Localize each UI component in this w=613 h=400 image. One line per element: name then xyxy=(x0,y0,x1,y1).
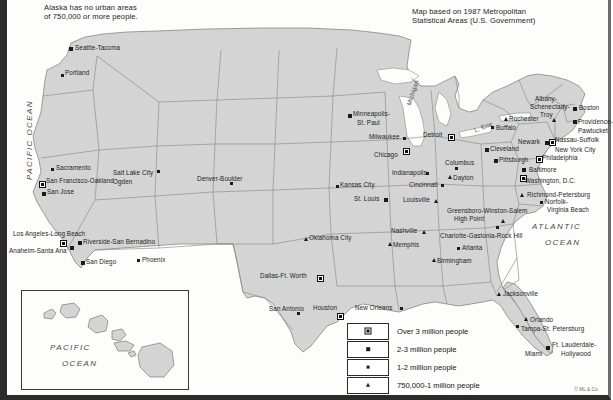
city-symbol xyxy=(520,193,524,197)
city-label: Los Angeles-Long Beach xyxy=(13,230,85,237)
city-label: Houston xyxy=(313,304,337,311)
city-label: Birmingham xyxy=(437,257,472,264)
city-label: New Orleans xyxy=(355,304,393,311)
city-label: Jacksonville xyxy=(503,290,538,297)
triangle-icon xyxy=(366,383,370,387)
city-label: Oklahoma City xyxy=(309,234,352,241)
city-label: Kansas City xyxy=(340,181,375,188)
city-label: Cleveland xyxy=(490,145,519,152)
city-symbol xyxy=(230,182,233,185)
pacific-ocean-inset-label-line2: OCEAN xyxy=(62,359,97,368)
city-label: Norfolk- xyxy=(545,198,568,205)
city-label: Nassau-Suffolk xyxy=(555,136,599,143)
city-label: Boston xyxy=(579,104,599,111)
city-label: Buffalo xyxy=(496,124,516,131)
city-label: Milwaukee xyxy=(369,133,400,140)
city-symbol xyxy=(51,168,54,171)
city-label: High Point xyxy=(454,215,484,222)
city-symbol xyxy=(524,317,528,321)
city-label: Charlotte-Gastonia-Rock Hill xyxy=(440,232,523,239)
city-symbol xyxy=(81,261,85,265)
city-label: Detroit xyxy=(423,131,442,138)
city-symbol xyxy=(317,275,324,282)
city-symbol xyxy=(297,312,300,315)
city-symbol xyxy=(400,307,403,310)
city-label: Ft. Lauderdale- xyxy=(552,341,596,348)
city-label: San Antonio xyxy=(269,305,304,312)
city-label: Nashville xyxy=(391,227,417,234)
city-label: Minneapolis- xyxy=(353,110,390,117)
city-label: Washington, D.C. xyxy=(525,177,576,184)
city-symbol xyxy=(69,47,73,51)
legend-symbol-box xyxy=(347,341,389,358)
city-label: Riverside-San Bernadino xyxy=(83,238,155,245)
city-label: Greensboro-Winston-Salem xyxy=(447,207,527,214)
city-label: Anaheim-Santa Ana xyxy=(9,247,67,254)
city-label: Schenectady- xyxy=(530,103,570,110)
city-label: Providence- xyxy=(578,118,613,125)
atlantic-ocean-label-line1: ATLANTIC xyxy=(532,222,581,231)
city-label: New York City xyxy=(555,146,596,153)
city-label: San Diego xyxy=(86,258,116,265)
city-symbol xyxy=(403,148,410,155)
atlantic-ocean-label-line2: OCEAN xyxy=(545,238,580,247)
city-symbol xyxy=(546,346,550,350)
pacific-ocean-label: PACIFIC OCEAN xyxy=(25,100,34,180)
hawaii-islands xyxy=(22,291,188,389)
city-symbol xyxy=(384,198,388,202)
city-label: Atlanta xyxy=(462,244,482,251)
city-label: Pawtucket xyxy=(578,127,608,134)
city-symbol xyxy=(422,230,426,234)
city-label: Chicago xyxy=(374,151,398,158)
city-label: Troy xyxy=(540,111,553,118)
medium-square-icon xyxy=(366,347,370,351)
city-symbol xyxy=(455,167,458,170)
city-symbol xyxy=(504,117,508,121)
city-label: Hollywood xyxy=(561,350,591,357)
alaska-note: Alaska has no urban areas of 750,000 or … xyxy=(44,4,138,21)
legend-label: 750,000-1 million people xyxy=(397,381,480,390)
city-symbol xyxy=(573,107,577,111)
city-label: Tampa-St. Petersburg xyxy=(521,325,584,332)
city-symbol xyxy=(304,237,308,241)
city-symbol xyxy=(78,241,82,245)
city-label: Albany- xyxy=(535,95,557,102)
city-label: Philadelphia xyxy=(542,154,578,161)
legend-symbol-box xyxy=(347,323,389,340)
pacific-ocean-inset-label-line1: PACIFIC xyxy=(50,343,91,352)
city-symbol xyxy=(403,137,406,140)
square-with-dot-icon xyxy=(365,328,372,335)
city-symbol xyxy=(337,313,344,320)
city-label: Virginia Beach xyxy=(547,206,589,213)
city-symbol xyxy=(157,170,160,173)
city-symbol xyxy=(448,175,452,179)
legend-label: 1-2 million people xyxy=(397,363,457,372)
city-label: Cincinnati xyxy=(409,181,438,188)
city-symbol xyxy=(441,184,444,187)
hawaii-inset-map: PACIFIC OCEAN xyxy=(21,290,189,390)
city-label: Phoenix xyxy=(142,256,165,263)
city-symbol xyxy=(540,201,543,204)
city-label: Rochester xyxy=(509,115,539,122)
city-label: St. Paul xyxy=(357,119,380,126)
city-label: Orlando xyxy=(530,316,553,323)
city-symbol xyxy=(70,246,74,250)
legend-row: Over 3 million people xyxy=(347,322,480,340)
city-label: Portland xyxy=(65,69,89,76)
legend-row: 1-2 million people xyxy=(347,358,480,376)
city-symbol xyxy=(388,242,392,246)
city-symbol xyxy=(434,199,438,203)
city-symbol xyxy=(448,134,455,141)
city-symbol xyxy=(432,258,436,262)
city-symbol xyxy=(494,159,498,163)
city-label: Seattle-Tacoma xyxy=(75,44,120,51)
city-label: Dallas-Ft. Worth xyxy=(260,272,307,279)
map-legend: Over 3 million people2-3 million people1… xyxy=(347,322,480,394)
city-symbol xyxy=(573,120,577,124)
city-label: Memphis xyxy=(393,241,419,248)
city-symbol xyxy=(522,168,526,172)
city-symbol xyxy=(42,192,46,196)
city-symbol xyxy=(485,148,489,152)
city-label: San Francisco-Oakland xyxy=(46,177,114,184)
